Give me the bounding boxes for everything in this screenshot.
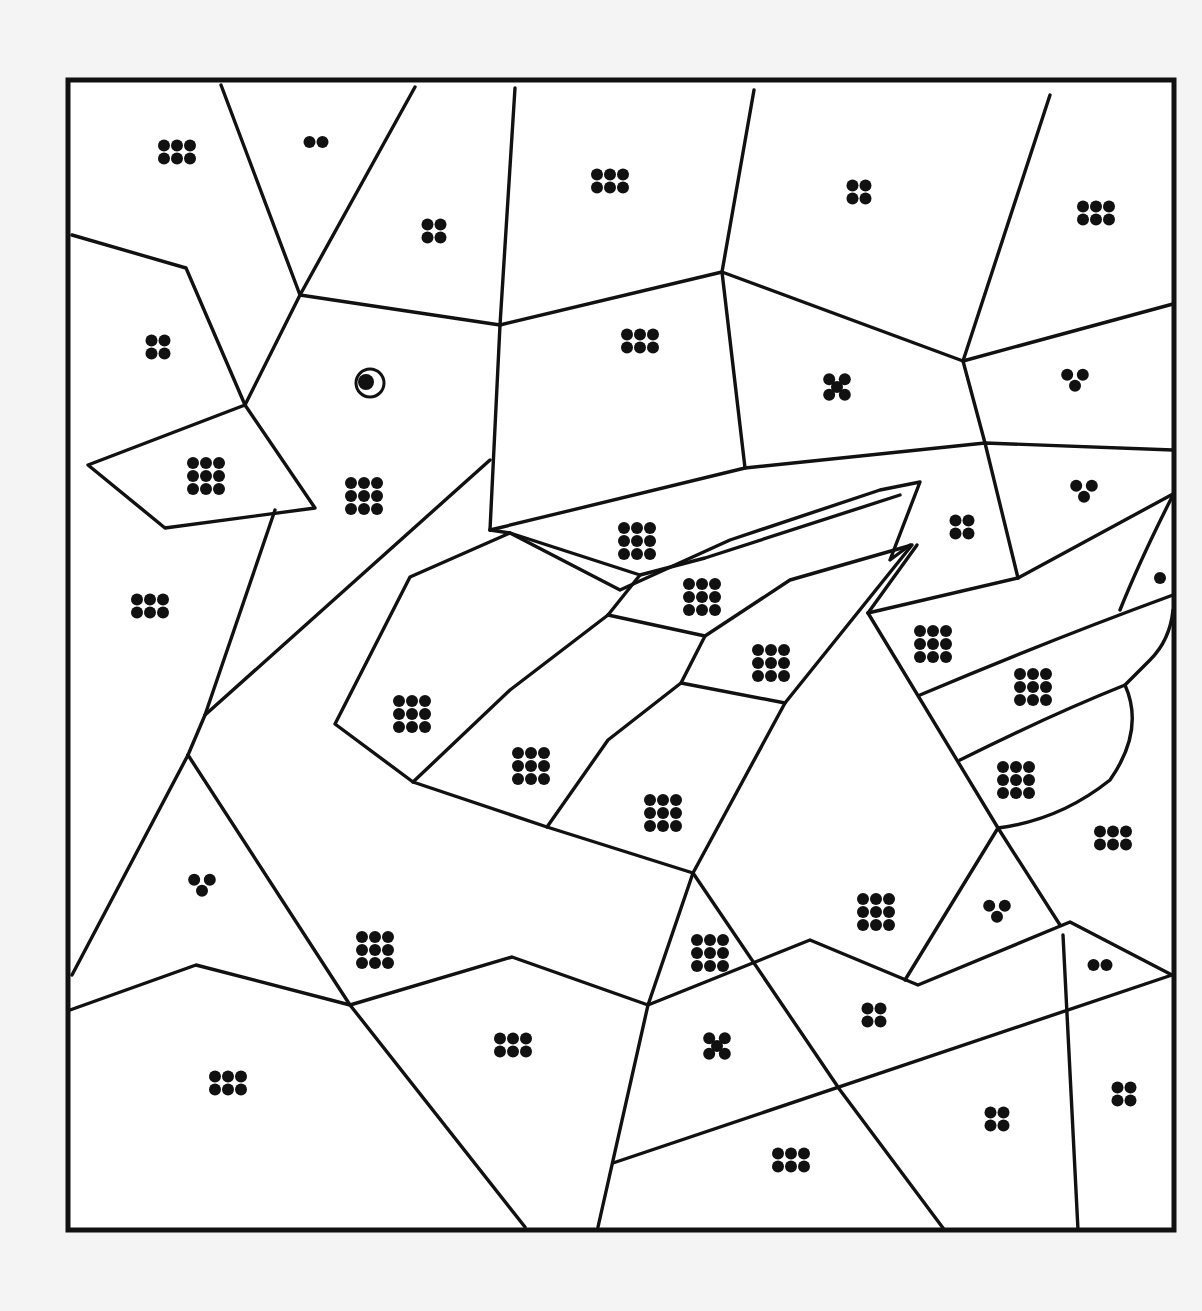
dot-icon [752,670,764,682]
dot-cluster-9[interactable] [914,625,952,663]
dot-icon [158,153,170,165]
dot-cluster-9[interactable] [1014,668,1052,706]
dot-icon [765,657,777,669]
dot-cluster-9[interactable] [187,457,225,495]
dot-icon [1077,214,1089,226]
dot-icon [1101,959,1113,971]
dot-icon [419,695,431,707]
drawing-area[interactable] [68,80,1174,1230]
dot-icon [618,522,630,534]
dot-icon [131,607,143,619]
dot-icon [857,906,869,918]
dot-icon [187,470,199,482]
dot-icon [785,1148,797,1160]
dot-icon [683,604,695,616]
dot-icon [617,169,629,181]
dot-icon [209,1071,221,1083]
dot-icon [200,483,212,495]
dot-icon [512,760,524,772]
dot-icon [1112,1095,1124,1107]
dot-icon [1107,839,1119,851]
dot-icon [371,503,383,515]
dot-icon [1090,214,1102,226]
dot-icon [618,535,630,547]
dot-cluster-9[interactable] [393,695,431,733]
dot-cluster-9[interactable] [618,522,656,560]
dot-icon [1125,1095,1137,1107]
dot-icon [159,335,171,347]
dot-icon [883,893,895,905]
dot-icon [520,1033,532,1045]
dot-cluster-9[interactable] [997,761,1035,799]
dot-icon [520,1046,532,1058]
dot-icon [696,604,708,616]
dot-cluster-9[interactable] [356,931,394,969]
dot-icon [785,1161,797,1173]
dot-cluster-9[interactable] [857,893,895,931]
dot-cluster-9[interactable] [691,934,729,972]
dot-cluster-1[interactable] [1154,572,1166,584]
dot-icon [940,638,952,650]
dot-icon [670,807,682,819]
dot-icon [823,389,835,401]
dot-icon [709,604,721,616]
dot-icon [222,1084,234,1096]
dot-icon [204,874,216,886]
dot-icon [647,329,659,341]
dot-icon [644,548,656,560]
dot-icon [950,515,962,527]
dot-icon [631,535,643,547]
dot-icon [1154,572,1166,584]
dot-icon [187,457,199,469]
dot-icon [1023,761,1035,773]
dot-icon [525,747,537,759]
dot-icon [998,1107,1010,1119]
dot-icon [1077,201,1089,213]
dot-cluster-9[interactable] [345,477,383,515]
dot-icon [419,721,431,733]
dot-icon [683,578,695,590]
dot-icon [704,934,716,946]
dot-icon [1010,761,1022,773]
dot-icon [1112,1082,1124,1094]
dot-icon [538,773,550,785]
dot-icon [717,947,729,959]
dot-icon [963,528,975,540]
dot-icon [985,1107,997,1119]
dot-icon [644,535,656,547]
dot-icon [1061,369,1073,381]
dot-icon [188,874,200,886]
dot-icon [1023,774,1035,786]
dot-icon [1094,826,1106,838]
dot-cluster-9[interactable] [512,747,550,785]
dot-icon [997,787,1009,799]
dot-icon [631,522,643,534]
dot-icon [1040,681,1052,693]
puzzle-canvas [0,0,1202,1311]
dot-cluster-9[interactable] [683,578,721,616]
dot-icon [1069,380,1081,392]
dot-icon [691,960,703,972]
dot-icon [146,348,158,360]
dot-icon [772,1161,784,1173]
dot-icon [914,625,926,637]
dot-icon [1107,826,1119,838]
dot-icon [345,490,357,502]
dot-icon [371,490,383,502]
dot-cluster-9[interactable] [752,644,790,682]
dot-icon [393,708,405,720]
dot-icon [1125,1082,1137,1094]
dot-icon [184,153,196,165]
dot-icon [369,957,381,969]
dot-icon [158,140,170,152]
dot-icon [591,169,603,181]
dot-icon [717,934,729,946]
dot-icon [196,885,208,897]
dot-icon [157,594,169,606]
dot-cluster-9[interactable] [644,794,682,832]
dot-icon [644,522,656,534]
dot-icon [131,594,143,606]
dot-icon [382,931,394,943]
dot-icon [847,180,859,192]
dot-icon [304,136,316,148]
